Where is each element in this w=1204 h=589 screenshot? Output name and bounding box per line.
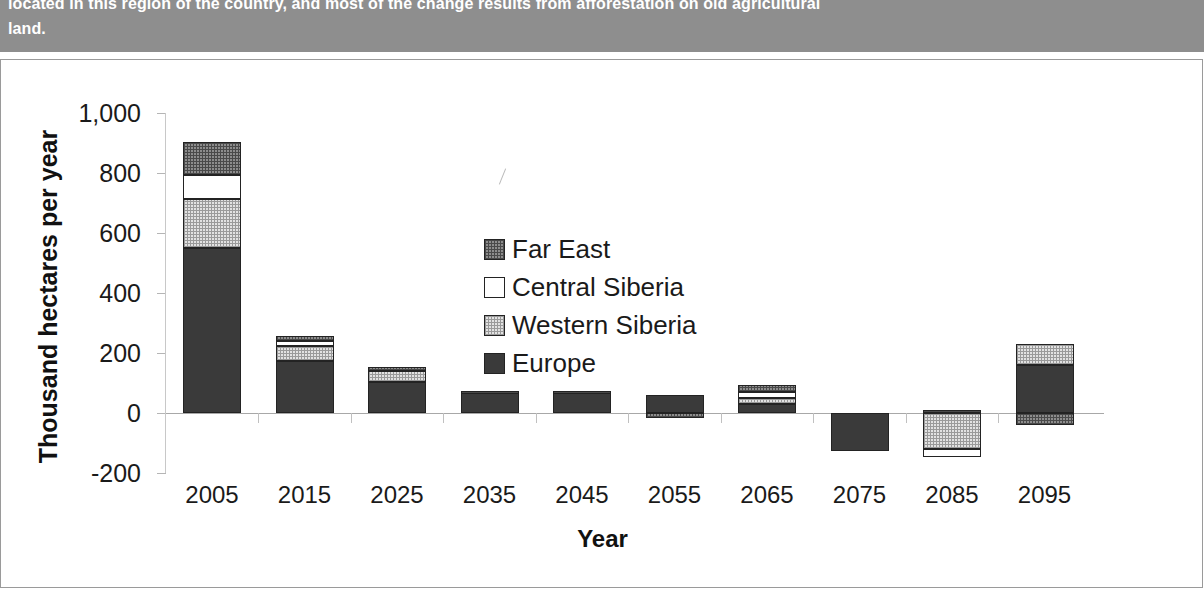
bar-segment [183, 199, 241, 249]
bar-segment [553, 392, 611, 413]
x-tick-label: 2065 [740, 481, 793, 509]
x-tick-label: 2035 [463, 481, 516, 509]
y-axis-line [165, 113, 166, 473]
x-tick-label: 2015 [278, 481, 331, 509]
bar-segment [738, 404, 796, 413]
caption-line-2: land. [8, 16, 46, 41]
caption-band: located in this region of the country, a… [0, 0, 1204, 52]
bar-segment [738, 398, 796, 404]
bar-segment [183, 142, 241, 175]
x-tick-mark [721, 413, 722, 423]
y-tick-label: 0 [51, 399, 141, 428]
figure-frame: Thousand hectares per year -200020040060… [0, 59, 1203, 588]
bar-segment [1016, 365, 1074, 413]
x-axis-title: Year [1, 525, 1204, 553]
legend-label: Western Siberia [512, 312, 697, 338]
legend-item: Western Siberia [484, 308, 697, 342]
bar-segment [646, 395, 704, 413]
legend-swatch-icon [484, 353, 505, 374]
x-tick-label: 2025 [370, 481, 423, 509]
chart-legend: Far EastCentral SiberiaWestern SiberiaEu… [484, 232, 697, 384]
bar-segment [1016, 413, 1074, 425]
x-tick-mark [443, 413, 444, 423]
bar-segment [831, 413, 889, 451]
bar-segment [276, 361, 334, 414]
x-tick-mark [813, 413, 814, 423]
bar-segment [368, 367, 426, 372]
legend-swatch-icon [484, 239, 505, 260]
legend-swatch-icon [484, 315, 505, 336]
chart-page: located in this region of the country, a… [0, 0, 1204, 589]
legend-label: Europe [512, 350, 596, 376]
stray-pen-mark [496, 168, 510, 186]
y-tick-label: 800 [51, 159, 141, 188]
bar-segment [923, 449, 981, 457]
plot-area: Thousand hectares per year -200020040060… [1, 60, 1204, 589]
legend-label: Central Siberia [512, 274, 684, 300]
legend-item: Europe [484, 346, 697, 380]
bar-segment [923, 413, 981, 449]
x-tick-label: 2075 [833, 481, 886, 509]
bar-segment [276, 346, 334, 361]
x-tick-label: 2085 [925, 481, 978, 509]
y-tick-label: 1,000 [51, 99, 141, 128]
bar-segment [461, 391, 519, 394]
legend-item: Far East [484, 232, 697, 266]
y-tick-mark [157, 473, 166, 474]
x-tick-mark [536, 413, 537, 423]
legend-swatch-icon [484, 277, 505, 298]
bar-segment [183, 175, 241, 199]
bar-segment [923, 410, 981, 413]
bar-segment [1016, 344, 1074, 365]
bar-segment [553, 391, 611, 394]
x-tick-label: 2005 [185, 481, 238, 509]
bar-segment [738, 392, 796, 398]
bar-segment [646, 413, 704, 418]
x-tick-mark [998, 413, 999, 423]
caption-line-1: located in this region of the country, a… [8, 0, 820, 16]
bar-segment [276, 336, 334, 341]
x-tick-mark [906, 413, 907, 423]
y-tick-label: 200 [51, 339, 141, 368]
x-tick-label: 2095 [1018, 481, 1071, 509]
bar-segment [276, 341, 334, 346]
x-tick-mark [351, 413, 352, 423]
bar-segment [738, 385, 796, 393]
y-tick-label: 600 [51, 219, 141, 248]
x-tick-mark [258, 413, 259, 423]
x-tick-mark [628, 413, 629, 423]
legend-item: Central Siberia [484, 270, 697, 304]
x-tick-label: 2045 [555, 481, 608, 509]
bar-segment [368, 382, 426, 414]
bar-segment [461, 392, 519, 413]
bar-segment [183, 248, 241, 413]
bar-segment [368, 371, 426, 382]
legend-label: Far East [512, 236, 610, 262]
y-tick-label: -200 [51, 459, 141, 488]
y-tick-label: 400 [51, 279, 141, 308]
x-tick-label: 2055 [648, 481, 701, 509]
